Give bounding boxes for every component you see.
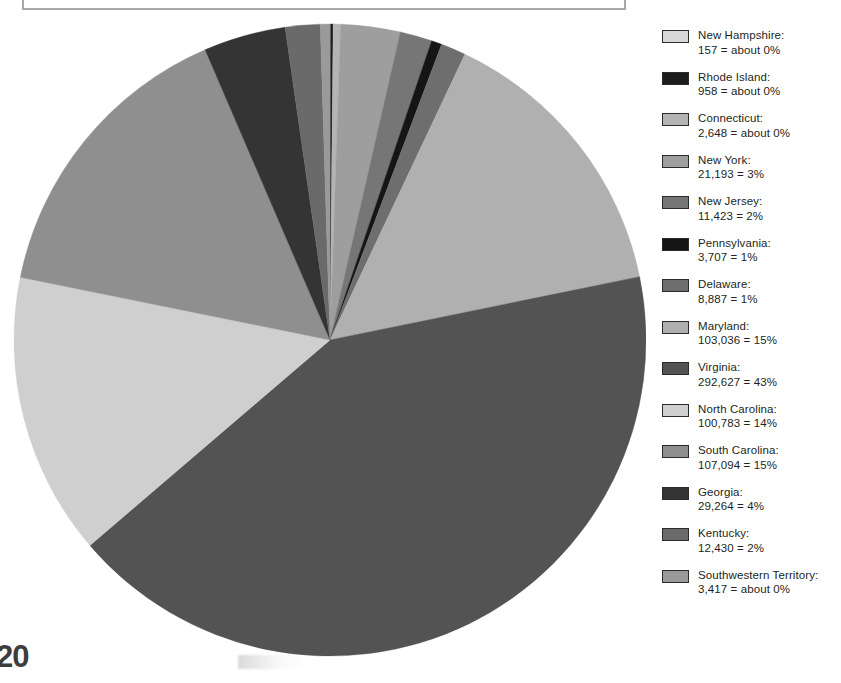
- legend-text: New Hampshire:157 = about 0%: [698, 28, 841, 57]
- legend-swatch-icon: [662, 570, 689, 583]
- legend-item: South Carolina:107,094 = 15%: [662, 443, 841, 475]
- legend-item: Connecticut:2,648 = about 0%: [662, 111, 841, 143]
- legend-label: New Hampshire:: [698, 28, 841, 43]
- legend-swatch-icon: [662, 362, 689, 375]
- legend-value: 8,887 = 1%: [698, 292, 841, 307]
- legend-swatch-icon: [662, 113, 689, 126]
- legend-item: New York:21,193 = 3%: [662, 153, 841, 185]
- legend-swatch-icon: [662, 487, 689, 500]
- legend-swatch-icon: [662, 72, 689, 85]
- legend-item: Delaware:8,887 = 1%: [662, 277, 841, 309]
- legend-value: 11,423 = 2%: [698, 209, 841, 224]
- legend-value: 100,783 = 14%: [698, 416, 841, 431]
- legend-value: 292,627 = 43%: [698, 375, 841, 390]
- legend-item: New Hampshire:157 = about 0%: [662, 28, 841, 60]
- legend-swatch-icon: [662, 196, 689, 209]
- legend-value: 958 = about 0%: [698, 84, 841, 99]
- legend-label: Georgia:: [698, 485, 841, 500]
- legend-label: Kentucky:: [698, 526, 841, 541]
- legend-value: 157 = about 0%: [698, 43, 841, 58]
- legend-swatch-icon: [662, 321, 689, 334]
- legend-item: Southwestern Territory:3,417 = about 0%: [662, 568, 841, 600]
- legend-item: Virginia:292,627 = 43%: [662, 360, 841, 392]
- legend-label: Pennsylvania:: [698, 236, 841, 251]
- legend-swatch-icon: [662, 445, 689, 458]
- legend-item: Pennsylvania:3,707 = 1%: [662, 236, 841, 268]
- legend-value: 3,417 = about 0%: [698, 582, 841, 597]
- legend-item: Maryland:103,036 = 15%: [662, 319, 841, 351]
- legend-text: Delaware:8,887 = 1%: [698, 277, 841, 306]
- legend-value: 107,094 = 15%: [698, 458, 841, 473]
- legend-value: 12,430 = 2%: [698, 541, 841, 556]
- legend-swatch-icon: [662, 528, 689, 541]
- legend-label: South Carolina:: [698, 443, 841, 458]
- legend-label: Delaware:: [698, 277, 841, 292]
- legend-text: Rhode Island:958 = about 0%: [698, 70, 841, 99]
- legend-label: Maryland:: [698, 319, 841, 334]
- pie-chart-svg: [8, 22, 646, 660]
- page-number: 20: [0, 639, 28, 675]
- legend-item: Kentucky:12,430 = 2%: [662, 526, 841, 558]
- legend-item: Georgia:29,264 = 4%: [662, 485, 841, 517]
- legend-label: New Jersey:: [698, 194, 841, 209]
- title-box: [22, 0, 626, 10]
- legend-text: Virginia:292,627 = 43%: [698, 360, 841, 389]
- legend-text: Connecticut:2,648 = about 0%: [698, 111, 841, 140]
- legend-item: Rhode Island:958 = about 0%: [662, 70, 841, 102]
- pie-chart: [8, 22, 646, 660]
- chart-legend: New Hampshire:157 = about 0%Rhode Island…: [662, 28, 841, 609]
- legend-text: South Carolina:107,094 = 15%: [698, 443, 841, 472]
- legend-swatch-icon: [662, 404, 689, 417]
- legend-item: North Carolina:100,783 = 14%: [662, 402, 841, 434]
- legend-label: Rhode Island:: [698, 70, 841, 85]
- legend-swatch-icon: [662, 155, 689, 168]
- legend-swatch-icon: [662, 30, 689, 43]
- legend-text: Maryland:103,036 = 15%: [698, 319, 841, 348]
- legend-text: North Carolina:100,783 = 14%: [698, 402, 841, 431]
- legend-item: New Jersey:11,423 = 2%: [662, 194, 841, 226]
- legend-value: 103,036 = 15%: [698, 333, 841, 348]
- legend-label: Southwestern Territory:: [698, 568, 841, 583]
- legend-text: New York:21,193 = 3%: [698, 153, 841, 182]
- legend-value: 3,707 = 1%: [698, 250, 841, 265]
- legend-label: Virginia:: [698, 360, 841, 375]
- legend-value: 21,193 = 3%: [698, 167, 841, 182]
- legend-text: New Jersey:11,423 = 2%: [698, 194, 841, 223]
- legend-label: New York:: [698, 153, 841, 168]
- legend-label: North Carolina:: [698, 402, 841, 417]
- legend-text: Kentucky:12,430 = 2%: [698, 526, 841, 555]
- legend-swatch-icon: [662, 238, 689, 251]
- legend-text: Georgia:29,264 = 4%: [698, 485, 841, 514]
- legend-value: 29,264 = 4%: [698, 499, 841, 514]
- legend-label: Connecticut:: [698, 111, 841, 126]
- legend-value: 2,648 = about 0%: [698, 126, 841, 141]
- legend-text: Southwestern Territory:3,417 = about 0%: [698, 568, 841, 597]
- legend-text: Pennsylvania:3,707 = 1%: [698, 236, 841, 265]
- pie-slice-group: [14, 24, 646, 656]
- legend-swatch-icon: [662, 279, 689, 292]
